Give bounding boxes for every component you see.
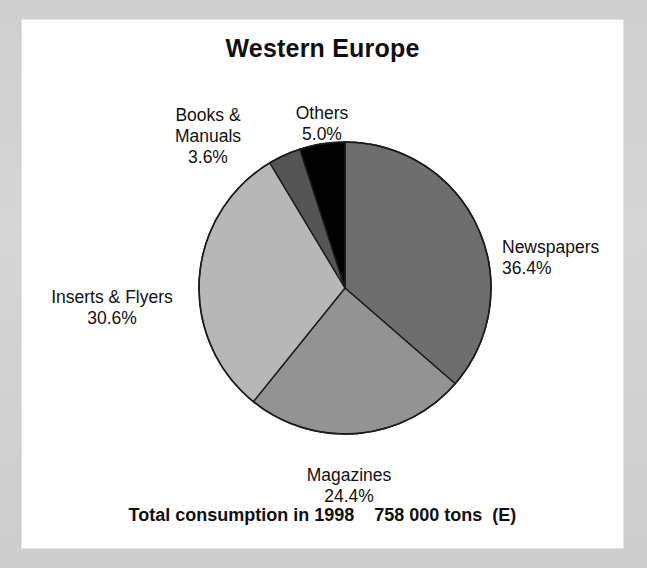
pie-label-newspapers: Newspapers 36.4%: [502, 216, 632, 300]
total-consumption-note: Total consumption in 1998 758 000 tons (…: [22, 505, 623, 526]
pie-label-inserts-and-flyers-name: Inserts & Flyers: [51, 287, 173, 307]
chart-plot-area: Western Europe Books & Manuals 3.6% Othe…: [22, 20, 623, 548]
chart-figure: Western Europe Books & Manuals 3.6% Othe…: [0, 0, 647, 568]
pie-label-magazines-pct: 24.4%: [274, 486, 424, 507]
pie-label-others: Others 5.0%: [274, 82, 370, 166]
pie-label-newspapers-name: Newspapers: [502, 237, 599, 257]
pie-label-books-and-manuals: Books & Manuals 3.6%: [152, 84, 264, 189]
pie-label-others-name: Others: [296, 103, 349, 123]
pie-label-newspapers-pct: 36.4%: [502, 258, 632, 279]
pie-label-inserts-and-flyers: Inserts & Flyers 30.6%: [24, 266, 200, 350]
pie-label-books-and-manuals-pct: 3.6%: [152, 147, 264, 168]
pie-label-others-pct: 5.0%: [274, 124, 370, 145]
pie-label-magazines-name: Magazines: [307, 465, 392, 485]
pie-label-books-and-manuals-name: Books & Manuals: [175, 105, 241, 146]
pie-label-inserts-and-flyers-pct: 30.6%: [24, 308, 200, 329]
